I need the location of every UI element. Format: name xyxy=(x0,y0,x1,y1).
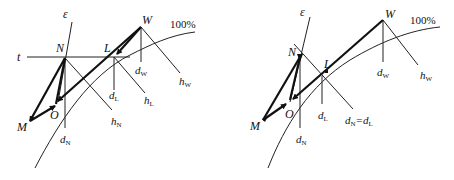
left-epsilon-label: ε xyxy=(63,7,68,21)
left-t-label: t xyxy=(17,50,21,64)
right-vector-NM xyxy=(263,57,300,120)
right-point-O: O xyxy=(285,107,294,121)
left-curve-label: 100% xyxy=(170,18,196,30)
right-hN-eq-dL-label: dN=dL xyxy=(345,114,373,128)
left-point-L: L xyxy=(103,41,111,55)
right-point-L: L xyxy=(323,57,331,71)
left-hW-label: hW xyxy=(179,75,192,89)
right-hW-line xyxy=(383,20,418,65)
velocity-diagram-figure: ε t N L W M O 100% dN hN dL hL dW hW xyxy=(0,0,454,180)
right-curve-label: 100% xyxy=(410,14,436,26)
left-hN-label: hN xyxy=(111,115,122,129)
left-hN-line xyxy=(65,58,112,110)
right-point-W: W xyxy=(385,7,396,21)
right-hW-label: hW xyxy=(420,69,433,83)
left-point-N: N xyxy=(55,41,65,55)
right-epsilon-label: ε xyxy=(300,5,305,19)
left-point-O: O xyxy=(50,108,59,122)
left-hW-line xyxy=(141,27,180,73)
left-dL-label: dL xyxy=(109,89,119,103)
left-dN-label: dN xyxy=(60,133,71,147)
left-point-W: W xyxy=(142,13,153,27)
right-panel: ε N L W M O 100% dN dL dN=dL dW hW xyxy=(249,5,440,168)
left-vector-WL xyxy=(117,27,141,54)
left-dW-label: dW xyxy=(135,64,148,78)
right-dN-label: dN xyxy=(296,133,307,147)
right-dL-label: dL xyxy=(318,109,328,123)
right-dW-label: dW xyxy=(377,66,390,80)
left-point-M: M xyxy=(16,120,28,134)
left-hL-label: hL xyxy=(144,94,154,108)
left-panel: ε t N L W M O 100% dN hN dL hL dW hW xyxy=(16,7,196,168)
right-point-M: M xyxy=(249,119,261,133)
right-point-N: N xyxy=(287,45,297,59)
